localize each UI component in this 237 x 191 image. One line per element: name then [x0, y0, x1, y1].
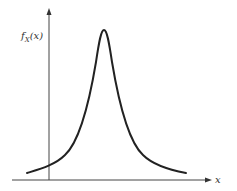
x-axis-label: x [215, 174, 221, 185]
density-curve [27, 30, 186, 173]
density-plot [0, 0, 237, 191]
x-axis-arrow-icon [205, 178, 212, 183]
y-axis-label: fX(x) [21, 30, 43, 44]
y-axis-arrow-icon [47, 8, 52, 15]
